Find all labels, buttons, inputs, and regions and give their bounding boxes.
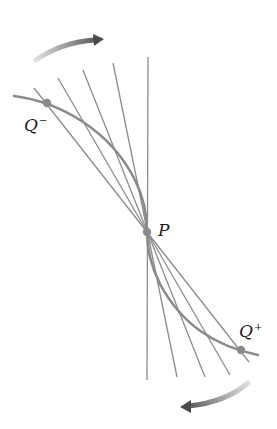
label-q-plus-text: Q <box>239 321 253 341</box>
secant-line-2 <box>83 70 205 377</box>
point-q-plus <box>237 346 245 354</box>
label-p: P <box>158 222 169 239</box>
rotation-arrow-bottom-icon <box>180 383 248 413</box>
secant-line-4 <box>34 88 249 362</box>
rotation-arrow-top-icon <box>36 34 104 60</box>
label-q-plus: Q+ <box>239 322 262 340</box>
function-curve <box>14 96 258 355</box>
label-q-minus-text: Q <box>24 115 38 135</box>
label-q-plus-superscript: + <box>254 321 262 332</box>
secant-lines <box>34 57 249 380</box>
label-p-text: P <box>158 220 169 240</box>
label-q-minus: Q− <box>24 116 47 134</box>
label-q-minus-superscript: − <box>39 115 47 126</box>
point-p <box>143 228 151 236</box>
point-q-minus <box>43 99 51 107</box>
secant-tangent-diagram <box>0 0 277 429</box>
